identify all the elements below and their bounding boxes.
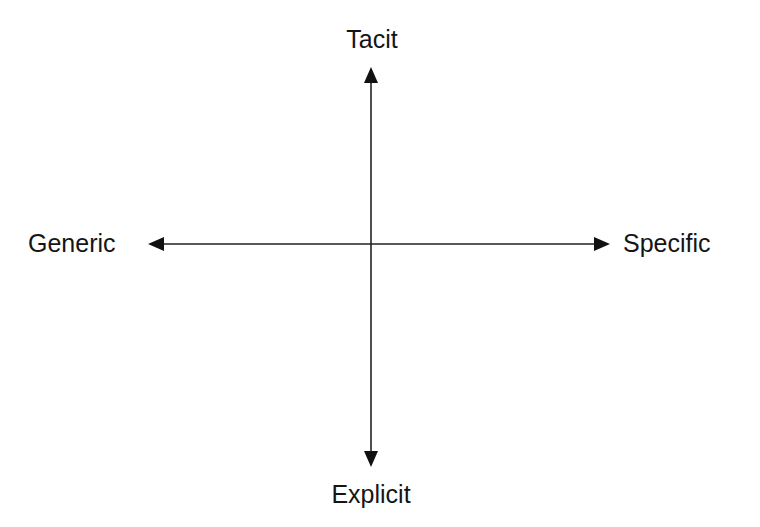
arrow-left-icon (148, 237, 164, 251)
axis-label-generic: Generic (28, 231, 116, 256)
axis-label-specific: Specific (623, 231, 711, 256)
arrow-down-icon (364, 451, 378, 467)
axes-diagram (0, 0, 760, 527)
arrow-up-icon (364, 67, 378, 83)
axis-label-tacit: Tacit (346, 27, 397, 52)
axis-label-explicit: Explicit (331, 482, 410, 507)
arrow-right-icon (594, 237, 610, 251)
